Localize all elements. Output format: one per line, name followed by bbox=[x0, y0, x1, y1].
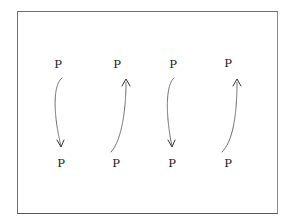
arrow-up-2 bbox=[111, 82, 126, 152]
arrow-down-1 bbox=[55, 78, 62, 146]
arrow-down-3 bbox=[167, 78, 174, 146]
arrows-layer bbox=[0, 0, 295, 223]
arrow-up-4 bbox=[222, 82, 237, 152]
